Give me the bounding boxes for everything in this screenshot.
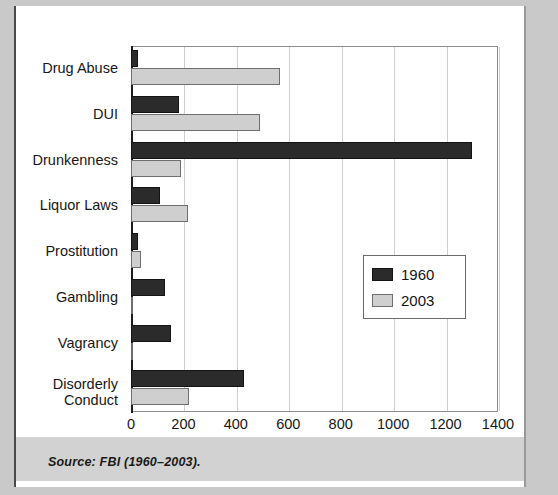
category-label-line1: Drunkenness bbox=[0, 152, 118, 168]
gridline bbox=[499, 47, 500, 411]
category-label-3: Liquor Laws bbox=[0, 197, 118, 213]
category-label-1: DUI bbox=[0, 106, 118, 122]
category-label-6: Vagrancy bbox=[0, 335, 118, 351]
bar-1960-6 bbox=[131, 325, 171, 342]
category-label-line1: DUI bbox=[0, 106, 118, 122]
bar-1960-5 bbox=[131, 279, 165, 296]
chart-legend: 1960 2003 bbox=[363, 255, 466, 319]
category-label-line1: Disorderly bbox=[0, 376, 118, 392]
category-label-7: DisorderlyConduct bbox=[0, 376, 118, 408]
x-tick-label-1400: 1400 bbox=[482, 416, 514, 432]
legend-item-2003: 2003 bbox=[372, 289, 434, 311]
category-label-5: Gambling bbox=[0, 289, 118, 305]
x-tick-label-1000: 1000 bbox=[377, 416, 409, 432]
bar-1960-4 bbox=[131, 233, 138, 250]
category-label-line1: Liquor Laws bbox=[0, 197, 118, 213]
bar-1960-3 bbox=[131, 187, 160, 204]
category-label-line1: Gambling bbox=[0, 289, 118, 305]
bars-layer bbox=[131, 46, 498, 412]
bar-1960-7 bbox=[131, 370, 244, 387]
bar-2003-4 bbox=[131, 251, 141, 268]
bar-2003-1 bbox=[131, 114, 260, 131]
bar-2003-6 bbox=[131, 343, 133, 360]
category-label-0: Drug Abuse bbox=[0, 60, 118, 76]
source-note: Source: FBI (1960–2003). bbox=[48, 455, 201, 469]
category-label-line1: Drug Abuse bbox=[0, 60, 118, 76]
category-axis-labels: Drug AbuseDUIDrunkennessLiquor LawsProst… bbox=[0, 46, 124, 412]
x-tick-label-400: 400 bbox=[224, 416, 248, 432]
x-tick-label-200: 200 bbox=[171, 416, 195, 432]
legend-swatch-icon-1960 bbox=[372, 268, 393, 281]
x-tick-label-0: 0 bbox=[127, 416, 135, 432]
legend-label-1960: 1960 bbox=[401, 267, 434, 282]
category-label-line2: Conduct bbox=[0, 392, 118, 408]
legend-label-2003: 2003 bbox=[401, 293, 434, 308]
bar-2003-0 bbox=[131, 68, 280, 85]
x-tick-label-600: 600 bbox=[276, 416, 300, 432]
bar-chart: Drug AbuseDUIDrunkennessLiquor LawsProst… bbox=[0, 0, 558, 495]
bar-2003-3 bbox=[131, 205, 188, 222]
bar-1960-2 bbox=[131, 142, 472, 159]
bar-2003-7 bbox=[131, 388, 189, 405]
bar-1960-0 bbox=[131, 50, 138, 67]
category-label-2: Drunkenness bbox=[0, 152, 118, 168]
category-label-line1: Vagrancy bbox=[0, 335, 118, 351]
bar-2003-5 bbox=[131, 297, 133, 314]
category-label-line1: Prostitution bbox=[0, 243, 118, 259]
legend-item-1960: 1960 bbox=[372, 263, 434, 285]
bar-1960-1 bbox=[131, 96, 179, 113]
legend-swatch-icon-2003 bbox=[372, 294, 393, 307]
x-tick-label-1200: 1200 bbox=[429, 416, 461, 432]
bar-2003-2 bbox=[131, 160, 181, 177]
x-tick-label-800: 800 bbox=[329, 416, 353, 432]
category-label-4: Prostitution bbox=[0, 243, 118, 259]
figure-container: Drug AbuseDUIDrunkennessLiquor LawsProst… bbox=[0, 0, 558, 495]
